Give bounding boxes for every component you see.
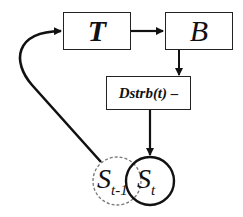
edge-st1-to-t <box>20 31 101 162</box>
node-b: B <box>165 12 233 50</box>
node-b-label: B <box>190 14 208 48</box>
node-t-label: T <box>88 14 106 48</box>
node-s-t-label: St <box>137 165 155 198</box>
node-t: T <box>63 12 131 50</box>
node-dstrb: Dstrb(t) – <box>106 76 191 110</box>
node-s-t-minus-1-label: St-1 <box>97 165 128 198</box>
node-dstrb-label: Dstrb(t) – <box>119 85 179 102</box>
